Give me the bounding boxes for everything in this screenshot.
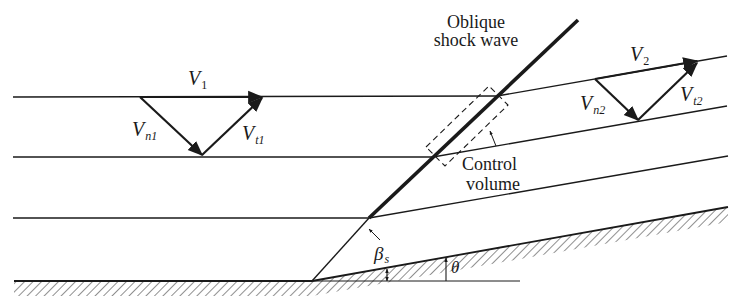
v2-label: V2 (630, 43, 649, 68)
wall-surface (14, 281, 312, 296)
vn1-arrow (140, 97, 202, 155)
upstream-streamlines (13, 96, 497, 218)
oblique-shock-diagram: Oblique shock wave Control volume V1 Vn1… (0, 0, 737, 300)
theta-label: θ (451, 258, 459, 277)
beta-angle-marker (369, 229, 380, 240)
shock-label-line1: Oblique (447, 12, 505, 32)
v1-label: V1 (188, 67, 207, 92)
shock-label-line2: shock wave (434, 30, 518, 50)
vt2-label: Vt2 (680, 83, 703, 108)
vn2-label: Vn2 (580, 92, 605, 117)
vt1-label: Vt1 (242, 122, 265, 147)
beta-label: βs (373, 243, 389, 266)
control-volume-label-line2: volume (466, 174, 520, 194)
control-volume-label-line1: Control (462, 154, 517, 174)
vn1-label: Vn1 (132, 118, 157, 143)
downstream-streamlines (369, 56, 728, 218)
